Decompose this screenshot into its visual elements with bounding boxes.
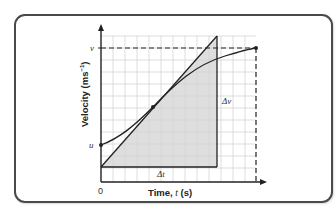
v-label: v [90,43,94,53]
delta-t-label: Δt [156,169,165,179]
x-axis-title: Time, t (s) [148,187,192,198]
y-axis-arrow-icon [98,24,104,31]
y-axis-title: Velocity (ms−1) [79,62,90,127]
origin-label: 0 [98,186,103,196]
x-axis-arrow-icon [260,179,267,185]
final-point [254,46,258,50]
delta-v-label: Δv [221,96,231,106]
velocity-time-graph: v u 0 Δt Δv Time, t (s) Velocity (ms−1) [0,0,336,216]
u-label: u [89,140,94,150]
tangent-point [151,105,155,109]
